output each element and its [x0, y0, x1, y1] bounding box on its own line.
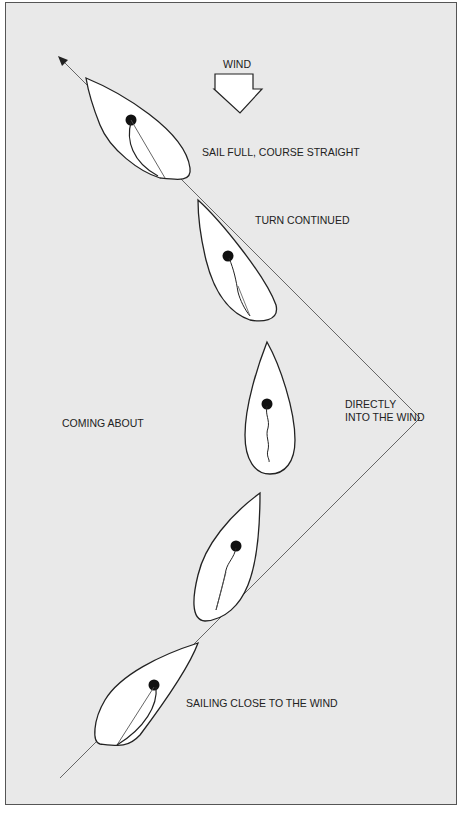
label-close-to-wind: SAILING CLOSE TO THE WIND: [186, 697, 338, 710]
wind-label: WIND: [223, 58, 251, 71]
label-sail-full: SAIL FULL, COURSE STRAIGHT: [202, 146, 360, 159]
label-directly-line1: DIRECTLY: [345, 398, 396, 411]
boat-into-wind: [245, 342, 295, 474]
boat-close-to-wind: [95, 643, 198, 745]
wind-arrow-icon: [214, 74, 262, 113]
label-directly-line2: INTO THE WIND: [345, 411, 425, 424]
boat-coming-about: [194, 493, 260, 621]
boat-sail-full: [86, 78, 190, 179]
label-turn-continued: TURN CONTINUED: [255, 214, 350, 227]
label-coming-about: COMING ABOUT: [62, 417, 144, 430]
